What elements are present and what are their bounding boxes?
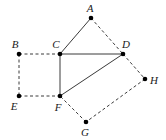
edge-h-g bbox=[86, 79, 145, 122]
vertex-label-b: B bbox=[12, 39, 19, 50]
vertex-point-f bbox=[58, 94, 63, 99]
edge-a-c bbox=[60, 18, 91, 54]
vertex-point-b bbox=[17, 52, 22, 57]
vertex-point-c bbox=[58, 52, 63, 57]
diagram-canvas bbox=[0, 0, 166, 140]
vertex-label-a: A bbox=[87, 3, 94, 14]
vertex-label-d: D bbox=[122, 39, 130, 50]
vertex-label-g: G bbox=[81, 127, 89, 138]
edge-f-d bbox=[60, 54, 123, 96]
vertex-point-e bbox=[17, 94, 22, 99]
vertex-label-e: E bbox=[11, 101, 18, 112]
vertex-point-h bbox=[143, 77, 148, 82]
edge-a-d bbox=[91, 18, 123, 54]
geometry-diagram: ABCDEFGH bbox=[0, 0, 166, 140]
vertices-layer bbox=[17, 16, 148, 125]
edge-d-h bbox=[123, 54, 145, 79]
vertex-point-d bbox=[121, 52, 126, 57]
edges-layer bbox=[19, 18, 145, 122]
vertex-point-a bbox=[89, 16, 94, 21]
vertex-label-h: H bbox=[150, 75, 158, 86]
edge-g-f bbox=[60, 96, 86, 122]
vertex-label-c: C bbox=[52, 39, 59, 50]
vertex-label-f: F bbox=[55, 102, 62, 113]
vertex-point-g bbox=[84, 120, 89, 125]
